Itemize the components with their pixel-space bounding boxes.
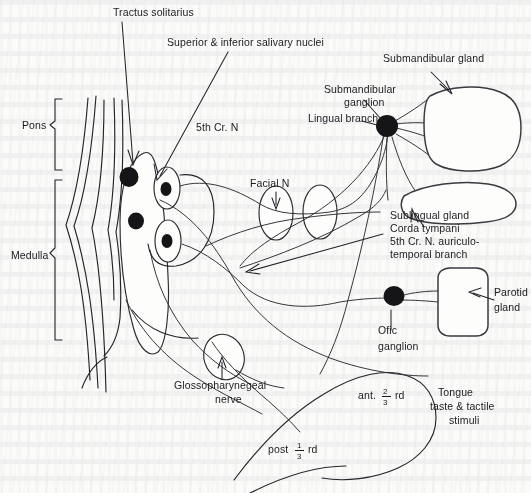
label-pons: Pons — [22, 119, 46, 131]
label-posterior-one-third: post 1 3 rd — [268, 441, 318, 461]
otic-ganglion-group — [384, 286, 405, 306]
otic-to-parotid-fibre-b — [400, 300, 438, 302]
label-sublingual-gland: Sublingual gland — [390, 209, 469, 221]
label-glossopharyngeal-line1: Glossopharynegeal — [174, 379, 266, 391]
label-post-numerator: 1 — [297, 441, 302, 450]
region-brackets — [50, 99, 62, 340]
anatomical-diagram: Tractus solitarius Superior & inferior s… — [0, 0, 531, 493]
label-parotid-line1: Parotid — [494, 286, 528, 298]
tractus-solitarius-cell-upper — [120, 167, 139, 187]
label-medulla: Medulla — [11, 249, 49, 261]
leader-salivary-nuclei — [160, 52, 228, 176]
label-tractus-solitarius: Tractus solitarius — [113, 6, 194, 18]
diagram-page: Tractus solitarius Superior & inferior s… — [0, 0, 531, 493]
ganglion-fibre-5 — [392, 137, 416, 192]
label-post-suffix: rd — [308, 443, 318, 455]
label-tongue-line1: Tongue — [438, 386, 473, 398]
parotid-gland-shape — [438, 268, 488, 336]
label-lingual-branch: Lingual branch — [308, 112, 378, 124]
label-corda-tympani: Corda tympani — [390, 222, 460, 234]
label-tongue-line2: taste & tactile — [430, 400, 495, 412]
submandibular-ganglion-dot — [376, 115, 398, 137]
leader-tractus-solitarius — [122, 22, 133, 163]
label-submandibular-ganglion-line1: Submandibular — [324, 83, 396, 95]
label-ant-suffix: rd — [395, 389, 405, 401]
label-submandibular-ganglion-line2: ganglion — [344, 96, 385, 108]
tractus-solitarius-cell-lower — [128, 213, 144, 230]
label-ant-denominator: 3 — [383, 398, 388, 407]
label-tongue-line3: stimuli — [449, 414, 479, 426]
superior-salivary-cell — [161, 182, 172, 196]
otic-to-parotid-fibre-a — [400, 291, 438, 296]
label-auriculotemporal-line1: 5th Cr. N. auriculo- — [390, 235, 480, 247]
inferior-salivary-cell — [162, 234, 173, 248]
label-otic-ganglion-line2: ganglion — [378, 340, 419, 352]
submandibular-gland-shape — [424, 87, 521, 171]
otic-ganglion-dot — [384, 286, 405, 306]
lingual-nerve-to-tongue — [320, 132, 384, 374]
label-fifth-cranial-nerve: 5th Cr. N — [196, 121, 238, 133]
label-parotid-line2: gland — [494, 301, 520, 313]
label-post-denominator: 3 — [297, 452, 302, 461]
medulla-bracket — [50, 180, 62, 340]
label-post-prefix: post — [268, 443, 288, 455]
label-salivary-nuclei: Superior & inferior salivary nuclei — [167, 36, 324, 48]
label-otic-ganglion-line1: Ofic — [378, 324, 397, 336]
ganglion-fibre-6 — [386, 138, 388, 200]
label-anterior-two-thirds: ant. 2 3 rd — [358, 387, 405, 407]
label-ant-numerator: 2 — [383, 387, 388, 396]
brainstem-tracts — [66, 96, 123, 392]
label-auriculotemporal-line2: temporal branch — [390, 248, 467, 260]
label-glossopharyngeal-line2: nerve — [215, 393, 242, 405]
pons-bracket — [50, 99, 62, 170]
peripheral-ganglia — [198, 185, 337, 385]
label-ant-prefix: ant. — [358, 389, 376, 401]
glossopharyngeal-ganglion — [198, 329, 250, 385]
label-submandibular-gland: Submandibular gland — [383, 52, 484, 64]
label-facial-nerve: Facial N — [250, 177, 289, 189]
